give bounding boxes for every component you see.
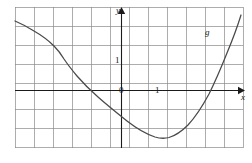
curve-label-g: g xyxy=(205,28,210,37)
y-axis-tick-one: 1 xyxy=(115,56,120,65)
graph-figure: y x 1 0 1 g xyxy=(0,0,252,163)
graph-canvas xyxy=(0,0,252,163)
origin-label: 0 xyxy=(119,86,124,95)
x-axis-tick-one: 1 xyxy=(155,86,160,95)
y-axis-label: y xyxy=(116,6,120,15)
x-axis-label: x xyxy=(241,93,245,102)
y-axis xyxy=(118,7,125,148)
